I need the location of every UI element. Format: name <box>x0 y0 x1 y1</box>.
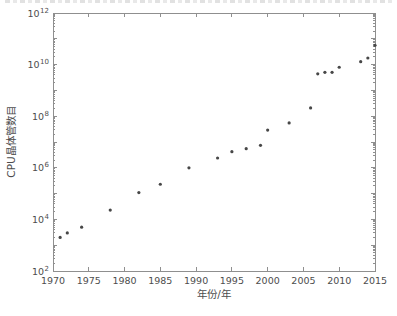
x-tick-label: 2015 <box>363 275 387 286</box>
data-point <box>288 121 291 124</box>
data-point <box>366 56 369 59</box>
screenshot-root: 1970197519801985199019952000200520102015… <box>0 0 397 316</box>
x-tick-label: 2010 <box>327 275 351 286</box>
x-tick-label: 1980 <box>112 275 136 286</box>
data-point <box>216 156 219 159</box>
x-tick-label: 1985 <box>148 275 172 286</box>
data-point <box>309 106 312 109</box>
data-point <box>316 72 319 75</box>
y-tick-label: 108 <box>32 110 49 122</box>
data-point <box>259 144 262 147</box>
data-point <box>266 128 269 131</box>
moore-law-chart: 1970197519801985199019952000200520102015… <box>0 0 397 316</box>
y-tick-label: 104 <box>32 213 50 225</box>
data-point <box>109 208 112 211</box>
y-tick-label: 1012 <box>27 7 49 19</box>
data-point <box>373 44 376 47</box>
data-point <box>159 183 162 186</box>
data-point <box>187 166 190 169</box>
x-tick-label: 2005 <box>291 275 315 286</box>
data-point <box>245 147 248 150</box>
x-tick-label: 1975 <box>77 275 101 286</box>
data-point <box>338 66 341 69</box>
y-tick-label: 106 <box>32 161 50 173</box>
data-point <box>66 231 69 234</box>
plot-frame <box>53 13 375 271</box>
data-point <box>137 191 140 194</box>
x-axis-label: 年份/年 <box>197 288 231 300</box>
x-tick-label: 2000 <box>256 275 280 286</box>
data-point <box>59 236 62 239</box>
y-axis-label: CPU晶体管数目 <box>5 106 17 177</box>
x-tick-label: 1970 <box>41 275 65 286</box>
data-point <box>330 71 333 74</box>
semilog-scatter-plot: 1970197519801985199019952000200520102015… <box>0 0 397 316</box>
x-tick-label: 1990 <box>184 275 208 286</box>
x-tick-label: 1995 <box>220 275 244 286</box>
data-point <box>80 226 83 229</box>
data-point <box>359 60 362 63</box>
data-point <box>230 150 233 153</box>
data-point <box>323 71 326 74</box>
y-tick-label: 1010 <box>27 58 49 70</box>
